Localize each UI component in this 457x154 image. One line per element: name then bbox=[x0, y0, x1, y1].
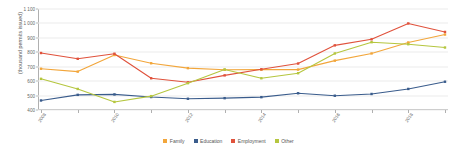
data-point[interactable] bbox=[260, 77, 262, 79]
data-point[interactable] bbox=[40, 52, 42, 54]
legend-swatch-icon bbox=[231, 139, 235, 143]
data-point[interactable] bbox=[223, 74, 225, 76]
legend-item-other[interactable]: Other bbox=[275, 138, 294, 144]
legend-item-education[interactable]: Education bbox=[194, 138, 223, 144]
data-point[interactable] bbox=[444, 31, 446, 33]
legend-label: Education bbox=[200, 138, 222, 144]
data-point[interactable] bbox=[334, 44, 336, 46]
y-axis-title: (thousand permits issued) bbox=[17, 0, 23, 91]
legend-swatch-icon bbox=[163, 139, 167, 143]
data-point[interactable] bbox=[297, 92, 299, 94]
data-point[interactable] bbox=[223, 68, 225, 70]
y-tick-label: 500 bbox=[27, 93, 35, 98]
data-point[interactable] bbox=[444, 33, 446, 35]
data-point[interactable] bbox=[40, 68, 42, 70]
data-point[interactable] bbox=[407, 22, 409, 24]
y-tick-label: 1 000 bbox=[24, 21, 36, 26]
data-point[interactable] bbox=[113, 101, 115, 103]
data-point[interactable] bbox=[40, 99, 42, 101]
data-point[interactable] bbox=[150, 77, 152, 79]
data-point[interactable] bbox=[187, 98, 189, 100]
series-education bbox=[40, 81, 446, 102]
data-point[interactable] bbox=[334, 95, 336, 97]
y-tick-label: 600 bbox=[27, 79, 35, 84]
x-tick-mark bbox=[372, 110, 373, 113]
series-family bbox=[40, 33, 446, 72]
y-tick-label: 700 bbox=[27, 64, 35, 69]
x-tick-label: 2016 bbox=[331, 112, 341, 123]
x-tick-label: 2008 bbox=[37, 112, 47, 123]
data-point[interactable] bbox=[297, 62, 299, 64]
x-tick-mark bbox=[298, 110, 299, 113]
data-point[interactable] bbox=[113, 93, 115, 95]
data-point[interactable] bbox=[187, 67, 189, 69]
x-tick-label: 2018 bbox=[404, 112, 414, 123]
data-point[interactable] bbox=[407, 43, 409, 45]
data-point[interactable] bbox=[297, 68, 299, 70]
y-tick-label: 400 bbox=[27, 108, 35, 113]
legend-label: Family bbox=[170, 138, 185, 144]
data-point[interactable] bbox=[260, 68, 262, 70]
data-point[interactable] bbox=[444, 81, 446, 83]
x-tick-label: 2010 bbox=[111, 112, 121, 123]
legend-swatch-icon bbox=[275, 139, 279, 143]
y-tick-label: 900 bbox=[27, 35, 35, 40]
legend-item-employment[interactable]: Employment bbox=[231, 138, 265, 144]
legend-label: Employment bbox=[238, 138, 266, 144]
data-point[interactable] bbox=[334, 59, 336, 61]
data-point[interactable] bbox=[370, 41, 372, 43]
data-point[interactable] bbox=[370, 52, 372, 54]
data-point[interactable] bbox=[150, 62, 152, 64]
data-point[interactable] bbox=[77, 88, 79, 90]
data-point[interactable] bbox=[223, 97, 225, 99]
x-tick-mark bbox=[225, 110, 226, 113]
data-point[interactable] bbox=[77, 58, 79, 60]
data-point[interactable] bbox=[77, 70, 79, 72]
data-point[interactable] bbox=[113, 53, 115, 55]
data-point[interactable] bbox=[187, 82, 189, 84]
series-layer bbox=[38, 9, 448, 110]
x-tick-mark bbox=[151, 110, 152, 113]
series-line bbox=[41, 35, 445, 72]
legend-swatch-icon bbox=[194, 139, 198, 143]
y-tick-label: 1 100 bbox=[24, 7, 36, 12]
data-point[interactable] bbox=[407, 88, 409, 90]
x-tick-label: 2014 bbox=[257, 112, 267, 123]
line-chart: (thousand permits issued) 1 1001 0009008… bbox=[0, 0, 457, 154]
y-tick-label: 800 bbox=[27, 50, 35, 55]
legend-item-family[interactable]: Family bbox=[163, 138, 184, 144]
data-point[interactable] bbox=[150, 95, 152, 97]
data-point[interactable] bbox=[444, 46, 446, 48]
data-point[interactable] bbox=[334, 52, 336, 54]
chart-legend: FamilyEducationEmploymentOther bbox=[0, 138, 457, 144]
plot-area: 1 1001 000900800700600500400 20082010201… bbox=[38, 9, 448, 110]
data-point[interactable] bbox=[40, 78, 42, 80]
x-tick-label: 2012 bbox=[184, 112, 194, 123]
legend-label: Other bbox=[281, 138, 294, 144]
data-point[interactable] bbox=[370, 93, 372, 95]
data-point[interactable] bbox=[370, 38, 372, 40]
data-point[interactable] bbox=[77, 94, 79, 96]
x-tick-mark bbox=[78, 110, 79, 113]
x-tick-mark bbox=[445, 110, 446, 113]
data-point[interactable] bbox=[260, 96, 262, 98]
data-point[interactable] bbox=[297, 72, 299, 74]
